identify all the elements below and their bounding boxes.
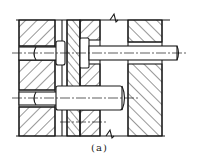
- assembly-drawing: [0, 0, 199, 163]
- middle-plate-2: [80, 20, 100, 136]
- right-plate: [128, 20, 162, 136]
- left-plate: [19, 20, 55, 136]
- middle-plate-1: [67, 20, 80, 136]
- figure-caption: (a): [0, 142, 199, 153]
